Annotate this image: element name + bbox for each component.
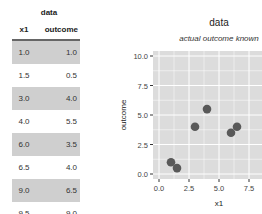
- y-axis-ticks: 0.02.55.07.510.0: [133, 52, 153, 179]
- cell-x1: 1.5: [12, 64, 36, 87]
- table-row: 6.54.0: [12, 156, 80, 179]
- cell-outcome: 5.5: [36, 110, 80, 133]
- chart-title: data: [209, 17, 229, 28]
- y-tick-label: 0.0: [138, 170, 148, 179]
- cell-outcome: 4.0: [36, 87, 80, 110]
- y-tick-label: 10.0: [133, 52, 148, 61]
- cell-x1: 6.5: [12, 156, 36, 179]
- x-axis-label: x1: [215, 199, 224, 208]
- column-header-outcome: outcome: [36, 19, 80, 40]
- data-point: [173, 164, 182, 173]
- table-row: 4.05.5: [12, 110, 80, 133]
- cell-x1: 9.5: [12, 202, 36, 214]
- column-header-x1: x1: [12, 19, 36, 40]
- cell-outcome: 6.5: [36, 179, 80, 202]
- x-tick-label: 5.0: [214, 184, 224, 193]
- table-row: 3.04.0: [12, 87, 80, 110]
- data-point: [233, 123, 242, 132]
- cell-x1: 6.0: [12, 133, 36, 156]
- table-row: 1.01.0: [12, 40, 80, 64]
- y-axis-label: outcome: [119, 99, 128, 130]
- cell-x1: 9.0: [12, 179, 36, 202]
- x-axis-ticks: 0.02.55.07.5: [154, 179, 254, 193]
- x-tick-label: 0.0: [154, 184, 164, 193]
- data-point: [191, 123, 200, 132]
- table-header-row: x1 outcome: [12, 19, 80, 40]
- y-tick-label: 7.5: [138, 82, 148, 91]
- table-row: 1.50.5: [12, 64, 80, 87]
- x-tick-label: 7.5: [244, 184, 254, 193]
- table-title: data: [12, 7, 80, 19]
- y-tick-label: 2.5: [138, 141, 148, 150]
- cell-x1: 1.0: [12, 40, 36, 64]
- table-row: 6.03.5: [12, 133, 80, 156]
- table-row: 9.06.5: [12, 179, 80, 202]
- cell-outcome: 4.0: [36, 156, 80, 179]
- cell-x1: 4.0: [12, 110, 36, 133]
- cell-outcome: 3.5: [36, 133, 80, 156]
- scatter-chart: data actual outcome known 0.02.55.07.510…: [100, 0, 262, 214]
- table: x1 outcome 1.01.01.50.53.04.04.05.56.03.…: [12, 19, 80, 214]
- data-point: [203, 105, 212, 114]
- chart-subtitle: actual outcome known: [179, 34, 259, 43]
- cell-outcome: 0.5: [36, 64, 80, 87]
- x-tick-label: 2.5: [184, 184, 194, 193]
- data-table: data x1 outcome 1.01.01.50.53.04.04.05.5…: [12, 7, 80, 214]
- table-row: 9.59.0: [12, 202, 80, 214]
- y-tick-label: 5.0: [138, 111, 148, 120]
- cell-outcome: 9.0: [36, 202, 80, 214]
- cell-outcome: 1.0: [36, 40, 80, 64]
- cell-x1: 3.0: [12, 87, 36, 110]
